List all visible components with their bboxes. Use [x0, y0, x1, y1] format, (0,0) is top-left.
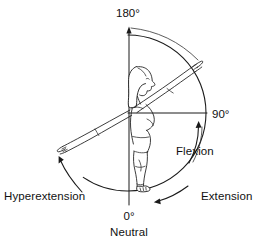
- extension-arrowhead-icon: [154, 198, 161, 204]
- figure-shorts-hem: [134, 151, 148, 153]
- label-hyperextension: Hyperextension: [4, 190, 85, 202]
- label-neutral: Neutral: [110, 226, 148, 238]
- figure-waistband: [133, 137, 149, 138]
- figure-extended-arm-elbow: [95, 129, 99, 136]
- figure-raised-hand: [195, 61, 203, 71]
- figure-eye: [146, 78, 149, 79]
- figure-knee-line: [136, 166, 146, 167]
- hyperextension-arrow-curve: [61, 161, 83, 193]
- figure-ankle-line: [137, 184, 144, 185]
- figure-front-leg: [143, 152, 147, 187]
- figure-back-leg: [134, 152, 138, 187]
- figure-front-torso-line: [146, 105, 154, 131]
- figure-calf-line: [139, 160, 141, 171]
- figure-extended-arm-lower-edge: [66, 116, 132, 152]
- vertical-axis-arrowhead-icon: [126, 27, 131, 34]
- figure-back-line: [130, 109, 133, 145]
- extension-arrow-curve: [159, 186, 189, 201]
- figure-shorts: [147, 130, 151, 152]
- figure-shoulder-joint: [131, 107, 143, 108]
- range-of-motion-svg: 180° 90° 0° Neutral Flexion Extension Hy…: [0, 0, 262, 242]
- label-0-degrees: 0°: [124, 210, 135, 222]
- flexion-arrowhead-icon: [196, 121, 202, 128]
- label-90-degrees: 90°: [212, 108, 229, 120]
- figure-bust-curve: [147, 119, 153, 126]
- label-extension: Extension: [201, 190, 252, 202]
- label-flexion: Flexion: [176, 145, 214, 157]
- figure-raised-arm-lower-edge: [137, 71, 196, 112]
- label-180-degrees: 180°: [116, 7, 140, 19]
- rom-diagram-root: 180° 90° 0° Neutral Flexion Extension Hy…: [0, 0, 262, 242]
- human-figure: [57, 61, 203, 192]
- figure-extended-arm-upper-edge: [63, 110, 130, 146]
- figure-raised-hand-fingers: [193, 64, 199, 69]
